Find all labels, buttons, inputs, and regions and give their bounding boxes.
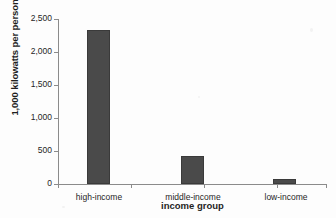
y-tick-label-2: 1,000 [31,112,52,122]
y-axis-line [58,19,59,184]
x-axis-line [58,184,327,185]
x-tick-1 [131,184,132,188]
y-tick-label-1: 500 [38,145,52,155]
x-tick-2 [204,184,205,188]
x-tick-0 [58,184,59,188]
y-axis-title: 1,000 kilowatts per person [9,0,20,128]
bar-middle-income[interactable] [181,156,204,184]
bar-low-income[interactable] [273,179,296,184]
x-axis-title: income group [58,200,327,211]
bar-high-income[interactable] [87,30,110,184]
y-tick-label-0: 0 [47,178,52,188]
y-tick-label-4: 2,000 [31,46,52,56]
bar-chart: 1,000 kilowatts per person 0 500 1,000 1… [0,0,336,218]
x-tick-3 [277,184,278,188]
y-tick-label-3: 1,500 [31,79,52,89]
y-tick-label-5: 2,500 [31,13,52,23]
plot-area: 0 500 1,000 1,500 2,000 2,500 [58,19,327,184]
x-tick-4 [326,184,327,188]
